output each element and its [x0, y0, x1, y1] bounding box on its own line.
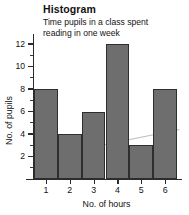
x-tick-3 — [94, 180, 95, 184]
y-minor-tick-3 — [30, 145, 33, 146]
x-tick-label-2: 2 — [62, 186, 78, 195]
bar — [153, 89, 177, 179]
bar — [106, 44, 130, 179]
x-tick-4 — [117, 180, 118, 184]
y-minor-tick-11 — [30, 55, 33, 56]
y-tick-label-10: 10 — [11, 62, 25, 71]
bar — [82, 112, 106, 180]
histogram-figure: Histogram Time pupils in a class spent r… — [0, 0, 189, 215]
y-tick-12 — [28, 43, 33, 44]
y-tick-8 — [28, 88, 33, 89]
x-tick-6 — [165, 180, 166, 184]
y-tick-10 — [28, 66, 33, 67]
x-tick-1 — [46, 180, 47, 184]
x-axis-title: No. of hours — [34, 199, 179, 209]
x-axis-line — [26, 179, 182, 180]
y-minor-tick-7 — [30, 100, 33, 101]
y-axis-title: No. of pupils — [5, 86, 14, 156]
plot-area: 24681012123456 — [0, 0, 189, 215]
x-tick-label-1: 1 — [38, 186, 54, 195]
x-tick-label-5: 5 — [133, 186, 149, 195]
x-tick-label-6: 6 — [157, 186, 173, 195]
x-tick-label-4: 4 — [109, 186, 125, 195]
y-tick-4 — [28, 133, 33, 134]
y-tick-label-12: 12 — [11, 40, 25, 49]
y-tick-2 — [28, 156, 33, 157]
y-tick-6 — [28, 111, 33, 112]
x-tick-2 — [70, 180, 71, 184]
y-minor-tick-5 — [30, 122, 33, 123]
bar — [129, 145, 153, 179]
x-tick-5 — [141, 180, 142, 184]
x-tick-label-3: 3 — [86, 186, 102, 195]
bar — [34, 89, 58, 179]
y-minor-tick-1 — [30, 167, 33, 168]
y-minor-tick-9 — [30, 77, 33, 78]
bar — [58, 134, 82, 179]
